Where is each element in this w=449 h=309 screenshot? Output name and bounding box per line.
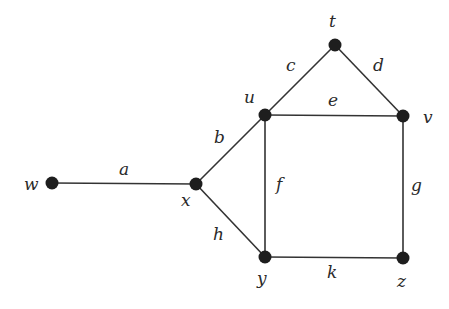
vertex-z [397,252,410,265]
edge-e [265,115,403,116]
edge-a [52,183,196,184]
edges-layer [52,45,403,258]
vertex-label-t: t [329,11,336,31]
edge-label-d: d [373,55,384,75]
edge-c [265,45,335,115]
edge-label-h: h [213,224,224,244]
graph-diagram: abcdefghktuvwxyz [0,0,449,309]
vertex-y [259,251,272,264]
edge-b [196,115,265,184]
edge-h [196,184,265,257]
vertex-label-x: x [181,190,191,210]
edge-d [335,45,403,116]
vertex-t [329,39,342,52]
edge-label-e: e [328,90,338,110]
vertex-x [190,178,203,191]
graph-canvas: abcdefghktuvwxyz [0,0,449,309]
vertex-label-w: w [24,174,39,194]
vertex-label-u: u [244,87,255,107]
edge-label-a: a [119,159,129,179]
edge-label-c: c [286,55,296,75]
edge-label-k: k [327,262,337,282]
edge-label-b: b [214,127,225,147]
vertex-u [259,109,272,122]
edge-label-g: g [411,175,422,195]
vertex-label-v: v [423,107,433,127]
vertex-label-z: z [396,271,407,291]
vertex-label-y: y [256,268,267,288]
vertex-v [397,110,410,123]
edge-label-f: f [274,174,285,194]
edge-k [265,257,403,258]
vertex-w [46,177,59,190]
